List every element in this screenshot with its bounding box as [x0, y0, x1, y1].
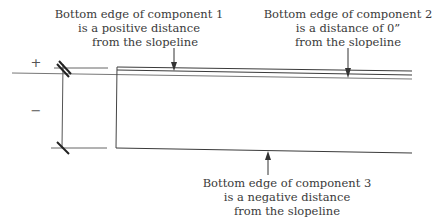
callout-1-line-3: from the slopeline — [92, 35, 198, 49]
callout-2-line-2: is a distance of 0” — [296, 21, 401, 35]
positive-sign: + — [31, 55, 42, 70]
dimension-line — [62, 64, 63, 148]
callout-1-line-1: Bottom edge of component 1 — [55, 7, 224, 21]
callout-component-1: Bottom edge of component 1 is a positive… — [55, 7, 224, 49]
arrow-component-3 — [265, 151, 271, 175]
component-left-edge — [116, 67, 117, 148]
negative-sign: − — [31, 103, 42, 118]
callout-2-line-1: Bottom edge of component 2 — [264, 7, 433, 21]
callout-3-line-1: Bottom edge of component 3 — [203, 176, 372, 190]
callout-2-line-3: from the slopeline — [295, 35, 401, 49]
slopeline-diagram: Bottom edge of component 1 is a positive… — [0, 0, 433, 221]
callout-component-3: Bottom edge of component 3 is a negative… — [203, 176, 372, 218]
callout-3-line-2: is a negative distance — [224, 190, 351, 204]
callout-component-2: Bottom edge of component 2 is a distance… — [264, 7, 433, 49]
callout-3-line-3: from the slopeline — [234, 204, 340, 218]
component-3-bottom-edge — [116, 148, 412, 153]
callout-1-line-2: is a positive distance — [78, 21, 200, 35]
